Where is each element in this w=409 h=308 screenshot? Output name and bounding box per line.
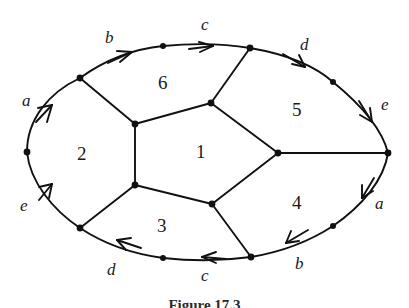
- edge-label-b-top-left: b: [105, 29, 114, 46]
- midpoint-dot-a: [330, 223, 336, 229]
- vertex-left: [24, 149, 31, 156]
- edge-innertop-topright: [211, 48, 250, 103]
- midpoint-dot-c: [160, 255, 166, 261]
- face-label-4: 4: [292, 193, 302, 212]
- vertex-right: [385, 150, 392, 157]
- boundary-arc-a-left: [27, 78, 80, 152]
- arrowhead-b-top: [108, 51, 132, 63]
- edge-innertop-innerright: [211, 103, 278, 153]
- edge-label-c-top: c: [201, 16, 209, 33]
- figure-container: 1 2 3 4 5 6 a b c d e a b c d e Figure 1…: [0, 0, 409, 308]
- edge-upperleft-innerupperleft: [80, 78, 135, 124]
- vertex-bottom-left: [77, 225, 84, 232]
- boundary-arc-e-left: [27, 152, 80, 228]
- vertex-inner-right: [275, 150, 282, 157]
- edge-innerbottom-innerlowerleft: [135, 185, 212, 204]
- interior-edges: [80, 48, 388, 257]
- boundary-arc-a-right: [333, 153, 388, 226]
- face-label-6: 6: [158, 73, 168, 92]
- edge-innerbottom-bottomright: [212, 204, 251, 257]
- boundary-arc-d: [250, 48, 333, 82]
- edge-label-e-right-upper: e: [381, 96, 389, 113]
- arrowhead-e-right: [359, 101, 372, 122]
- vertex-top-right: [247, 45, 254, 52]
- edge-label-d-upper-right: d: [300, 36, 309, 53]
- vertex-bottom-right: [248, 254, 255, 261]
- arrowhead-d-right: [283, 54, 305, 67]
- vertex-upper-left: [77, 75, 84, 82]
- face-label-5: 5: [292, 100, 302, 119]
- edge-innerright-innerbottom: [212, 153, 278, 204]
- edge-label-b-lower-right: b: [295, 255, 304, 272]
- interior-vertex-dots: [132, 100, 282, 208]
- vertex-inner-upper-left: [132, 121, 139, 128]
- midpoint-dot-b: [160, 43, 166, 49]
- edge-label-d-lower-left: d: [107, 261, 116, 278]
- arrowhead-e-left: [39, 184, 52, 200]
- face-label-2: 2: [77, 144, 87, 163]
- edge-label-c-bottom: c: [201, 267, 209, 284]
- figure-caption: Figure 17.3: [0, 297, 409, 308]
- boundary-arc-e-right: [333, 82, 388, 153]
- edge-label-a-right-lower: a: [375, 195, 384, 212]
- vertex-inner-bottom: [209, 201, 216, 208]
- midpoint-dot-d: [330, 79, 336, 85]
- edge-label-e-left-lower: e: [20, 197, 28, 214]
- arrowhead-c-bottom: [202, 252, 226, 263]
- boundary-arc-d-bottom: [80, 228, 163, 258]
- face-label-3: 3: [157, 216, 167, 235]
- vertex-inner-top: [208, 100, 215, 107]
- edge-label-a-upper-left: a: [22, 92, 31, 109]
- face-label-1: 1: [196, 142, 206, 161]
- vertex-inner-lower-left: [132, 182, 139, 189]
- boundary-midpoint-dots: [160, 43, 336, 261]
- edge-innerupperleft-innertop: [135, 103, 211, 124]
- edge-innerlowerleft-bottomleft: [80, 185, 135, 228]
